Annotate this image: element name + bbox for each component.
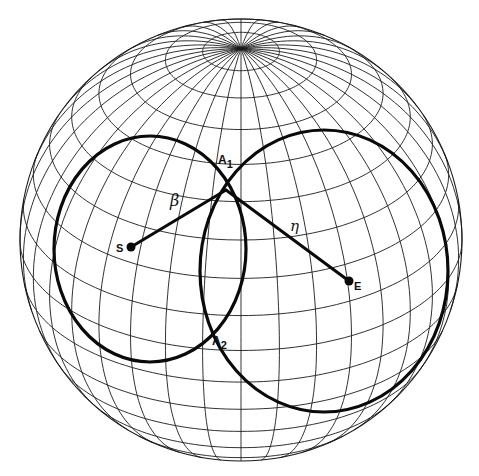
label-eta: η bbox=[290, 217, 299, 235]
left-circle bbox=[54, 136, 246, 362]
right-circle bbox=[200, 130, 448, 412]
point-s-marker bbox=[127, 243, 136, 252]
label-a2-subscript: 2 bbox=[221, 339, 227, 351]
label-a1-subscript: 1 bbox=[227, 158, 233, 170]
label-a1-main: A bbox=[218, 153, 227, 167]
label-a2-main: A bbox=[212, 334, 221, 348]
point-e-marker bbox=[345, 277, 354, 286]
label-s: S bbox=[116, 242, 123, 254]
globe-diagram: S E A1 A2 β η bbox=[0, 0, 479, 476]
label-e: E bbox=[354, 280, 361, 292]
label-beta: β bbox=[169, 191, 179, 210]
graticule-grid bbox=[20, 19, 462, 461]
label-a1: A1 bbox=[218, 153, 233, 170]
